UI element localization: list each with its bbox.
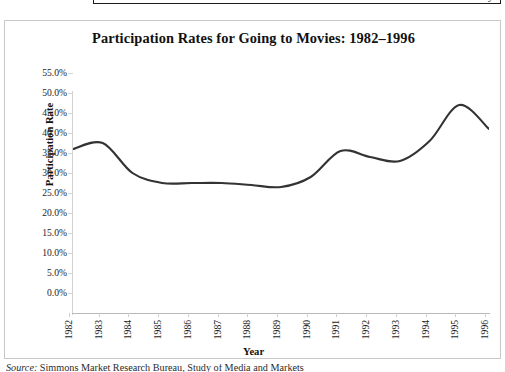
x-tick-mark — [188, 313, 189, 317]
source-note-body: Simmons Market Research Bureau, Study of… — [37, 364, 304, 372]
x-tick-label: 1984 — [123, 320, 133, 339]
x-tick-mark — [336, 313, 337, 317]
source-note-lead: Source: — [6, 364, 37, 372]
y-tick-label: 10.0% — [21, 248, 67, 258]
source-note: Source: Simmons Market Research Bureau, … — [6, 364, 505, 372]
y-axis-title: Participation Rate — [44, 85, 55, 205]
chart-title: Participation Rates for Going to Movies:… — [5, 30, 502, 47]
x-tick-mark — [366, 313, 367, 317]
y-tick-label: 55.0% — [21, 68, 67, 78]
x-tick-label: 1991 — [331, 320, 341, 339]
x-tick-mark — [455, 313, 456, 317]
y-tick-label: 20.0% — [21, 208, 67, 218]
chart-figure: Participation Rates for Going to Movies:… — [4, 20, 501, 359]
x-tick-label: 1985 — [153, 320, 163, 339]
x-tick-label: 1983 — [94, 320, 104, 339]
x-tick-mark — [158, 313, 159, 317]
top-fragment-text: y — [489, 0, 494, 2]
x-tick-mark — [426, 313, 427, 317]
x-tick-label: 1994 — [421, 320, 431, 339]
x-tick-mark — [277, 313, 278, 317]
line-series-movies — [73, 93, 489, 313]
x-tick-mark — [99, 313, 100, 317]
y-tick-mark — [68, 73, 73, 74]
x-tick-label: 1987 — [213, 320, 223, 339]
x-tick-mark — [307, 313, 308, 317]
x-tick-label: 1982 — [64, 320, 74, 339]
x-tick-mark — [247, 313, 248, 317]
y-tick-label: 15.0% — [21, 228, 67, 238]
x-tick-mark — [396, 313, 397, 317]
x-tick-mark — [485, 313, 486, 317]
x-tick-label: 1989 — [272, 320, 282, 339]
source-note-text: Source: Simmons Market Research Bureau, … — [6, 364, 304, 372]
x-tick-label: 1995 — [450, 320, 460, 339]
x-tick-label: 1990 — [302, 320, 312, 339]
x-tick-label: 1993 — [391, 320, 401, 339]
y-tick-label: 5.0% — [21, 268, 67, 278]
y-tick-label: 0.0% — [21, 288, 67, 298]
x-tick-label: 1986 — [183, 320, 193, 339]
x-axis-title: Year — [5, 346, 502, 357]
x-axis-line — [72, 313, 490, 314]
x-tick-label: 1988 — [242, 320, 252, 339]
x-tick-mark — [69, 313, 70, 317]
y-axis-tick-labels: 0.0%5.0%10.0%15.0%20.0%25.0%30.0%35.0%40… — [17, 21, 67, 360]
x-tick-mark — [218, 313, 219, 317]
top-clipped-box-fragment: y — [93, 0, 501, 4]
x-tick-label: 1992 — [361, 320, 371, 339]
plot-area — [73, 93, 489, 313]
x-tick-label: 1996 — [480, 320, 490, 339]
x-tick-mark — [128, 313, 129, 317]
